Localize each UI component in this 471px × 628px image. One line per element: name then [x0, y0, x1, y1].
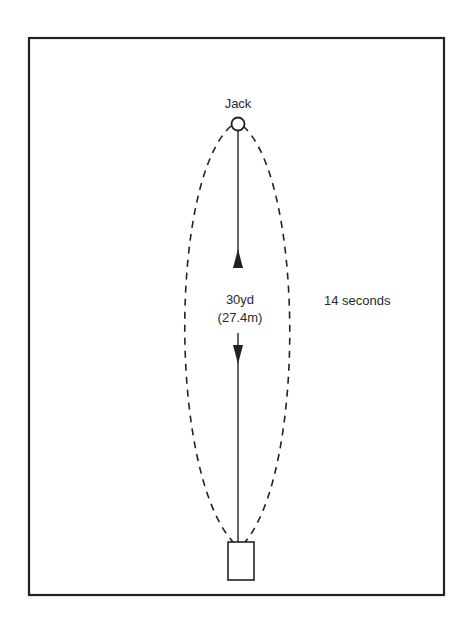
- arrow-down-icon: [233, 345, 243, 364]
- bowl-path-right: [243, 126, 290, 542]
- distance-meters-label: (27.4m): [218, 310, 263, 325]
- distance-yards-label: 30yd: [226, 292, 254, 307]
- mat-icon: [228, 542, 254, 580]
- time-label: 14 seconds: [324, 293, 391, 308]
- jack-icon: [232, 118, 245, 131]
- arrow-up-icon: [233, 249, 243, 268]
- lawn-bowls-timing-diagram: Jack 30yd (27.4m) 14 seconds: [0, 0, 471, 628]
- jack-label: Jack: [225, 96, 252, 111]
- bowl-path-left: [185, 126, 233, 542]
